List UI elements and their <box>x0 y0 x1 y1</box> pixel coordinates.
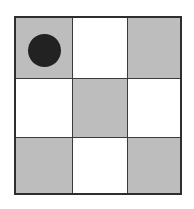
cell-r3-c2[interactable] <box>73 138 128 193</box>
cell-r2-c1[interactable] <box>16 79 73 138</box>
cell-r1-c3[interactable] <box>128 18 180 79</box>
game-board <box>14 16 182 195</box>
cell-r2-c3[interactable] <box>128 79 180 138</box>
cell-r2-c2[interactable] <box>73 79 128 138</box>
black-piece-icon[interactable] <box>28 34 61 67</box>
cell-r1-c1[interactable] <box>16 18 73 79</box>
cell-r1-c2[interactable] <box>73 18 128 79</box>
cell-r3-c3[interactable] <box>128 138 180 193</box>
cell-r3-c1[interactable] <box>16 138 73 193</box>
